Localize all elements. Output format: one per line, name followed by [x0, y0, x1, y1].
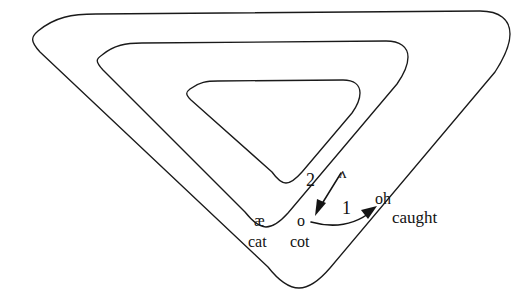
vowel-space-canvas: [0, 0, 524, 297]
vowel-symbol-wedge: ʌ: [339, 166, 347, 181]
shift-1-number-label: 1: [342, 199, 351, 217]
vowel-symbol-o: o: [297, 213, 305, 229]
vowel-symbol-oh: oh: [375, 191, 391, 207]
vowel-word-cat: cat: [248, 234, 267, 250]
middle-vowel-space-boundary: [97, 41, 408, 227]
shift-2-arrow-head: [315, 199, 326, 216]
vowel-word-caught: caught: [392, 209, 437, 226]
inner-vowel-space-boundary: [187, 80, 360, 183]
vowel-space-diagram: æ cat o cot oh caught ʌ 2 1: [0, 0, 524, 297]
vowel-word-cot: cot: [290, 234, 310, 250]
vowel-symbol-ae: æ: [254, 213, 265, 229]
shift-2-number-label: 2: [306, 171, 315, 189]
